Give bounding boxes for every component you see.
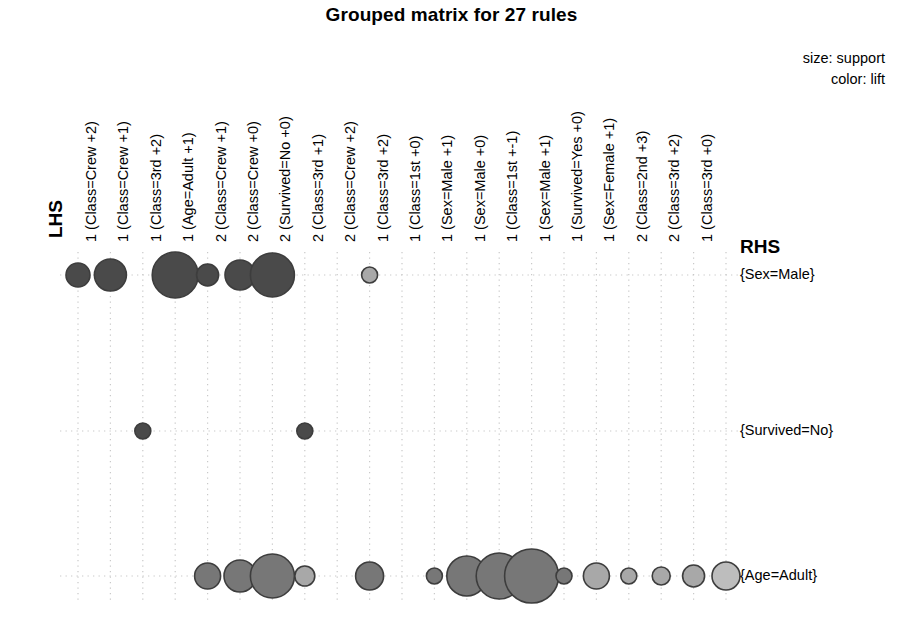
column-label: 1 (Class=Crew +2) xyxy=(84,121,99,242)
bubble-marker[interactable] xyxy=(66,263,90,287)
column-label: 1 (Survived=Yes +0) xyxy=(570,111,585,242)
matrix-plot: 1 (Class=Crew +2)1 (Class=Crew +1)1 (Cla… xyxy=(0,0,903,630)
column-label: 2 (Class=Crew +2) xyxy=(343,121,358,242)
chart-canvas: Grouped matrix for 27 rules size: suppor… xyxy=(0,0,903,630)
axis-title-lhs: LHS xyxy=(46,200,65,238)
bubble-marker[interactable] xyxy=(250,554,294,598)
column-label: 2 (Class=Crew +1) xyxy=(214,121,229,242)
column-label: 2 (Class=Crew +0) xyxy=(246,121,261,242)
bubble-marker[interactable] xyxy=(556,568,572,584)
column-label: 1 (Class=3rd +2) xyxy=(376,134,391,242)
bubble-marker[interactable] xyxy=(250,253,294,297)
row-label: {Age=Adult} xyxy=(740,568,817,583)
column-label: 1 (Sex=Male +1) xyxy=(440,135,455,242)
bubble-marker[interactable] xyxy=(505,549,559,603)
bubble-marker[interactable] xyxy=(652,567,670,585)
bubble-marker[interactable] xyxy=(94,259,126,291)
column-label: 1 (Class=3rd +0) xyxy=(700,134,715,242)
bubble-marker[interactable] xyxy=(152,252,198,298)
row-label: {Sex=Male} xyxy=(740,267,815,282)
column-label: 1 (Sex=Female +1) xyxy=(602,118,617,242)
column-label: 1 (Class=Crew +1) xyxy=(116,121,131,242)
column-label: 2 (Class=3rd +2) xyxy=(667,134,682,242)
column-label: 1 (Class=3rd +2) xyxy=(149,134,164,242)
bubble-marker[interactable] xyxy=(197,264,219,286)
grid-and-bubbles xyxy=(0,0,903,630)
column-label: 1 (Age=Adult +1) xyxy=(181,132,196,242)
column-label: 2 (Class=2nd +3) xyxy=(635,131,650,242)
column-label: 1 (Sex=Male +0) xyxy=(473,135,488,242)
bubble-marker[interactable] xyxy=(362,267,378,283)
bubble-marker[interactable] xyxy=(356,562,384,590)
column-label: 1 (Class=1st +0) xyxy=(408,136,423,242)
column-label: 2 (Class=3rd +1) xyxy=(311,134,326,242)
column-label: 1 (Class=1st +-1) xyxy=(505,131,520,242)
bubble-marker[interactable] xyxy=(583,563,609,589)
bubble-marker[interactable] xyxy=(195,563,221,589)
column-label: 2 (Survived=No +0) xyxy=(278,116,293,242)
bubble-marker[interactable] xyxy=(426,568,442,584)
row-label: {Survived=No} xyxy=(740,423,833,438)
bubble-marker[interactable] xyxy=(683,565,705,587)
bubble-marker[interactable] xyxy=(621,568,637,584)
column-label: 1 (Sex=Male +1) xyxy=(538,135,553,242)
axis-title-rhs: RHS xyxy=(740,236,780,258)
bubble-marker[interactable] xyxy=(295,566,315,586)
bubble-marker[interactable] xyxy=(712,562,740,590)
bubble-marker[interactable] xyxy=(297,423,313,439)
bubble-marker[interactable] xyxy=(135,423,151,439)
